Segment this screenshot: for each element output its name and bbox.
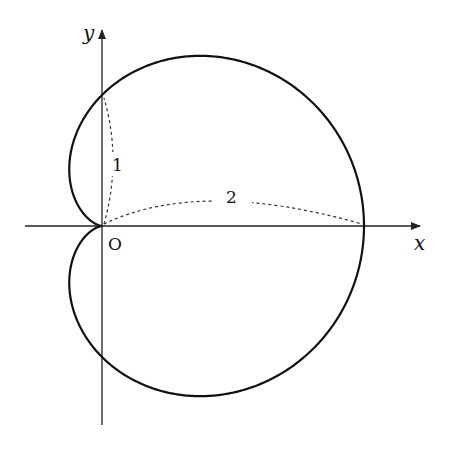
label-2: 2 [226,187,237,207]
cardioid-figure: 1 2 O x y [0,0,451,449]
label-1: 1 [112,155,123,175]
origin-label: O [108,234,122,254]
x-axis-label: x [414,231,425,255]
y-axis-label: y [82,21,95,45]
